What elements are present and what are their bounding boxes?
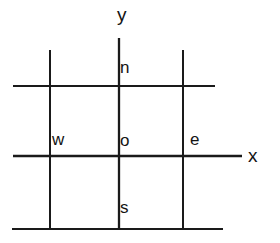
region-label-south: s bbox=[120, 199, 129, 216]
region-label-west: w bbox=[52, 131, 64, 148]
region-label-north: n bbox=[120, 59, 129, 76]
region-label-origin: o bbox=[120, 132, 129, 149]
diagram-canvas bbox=[0, 0, 280, 243]
x-axis-label: x bbox=[248, 146, 258, 165]
compass-grid-diagram: y x n w o e s bbox=[0, 0, 280, 243]
region-label-east: e bbox=[190, 131, 199, 148]
y-axis-label: y bbox=[117, 5, 127, 24]
